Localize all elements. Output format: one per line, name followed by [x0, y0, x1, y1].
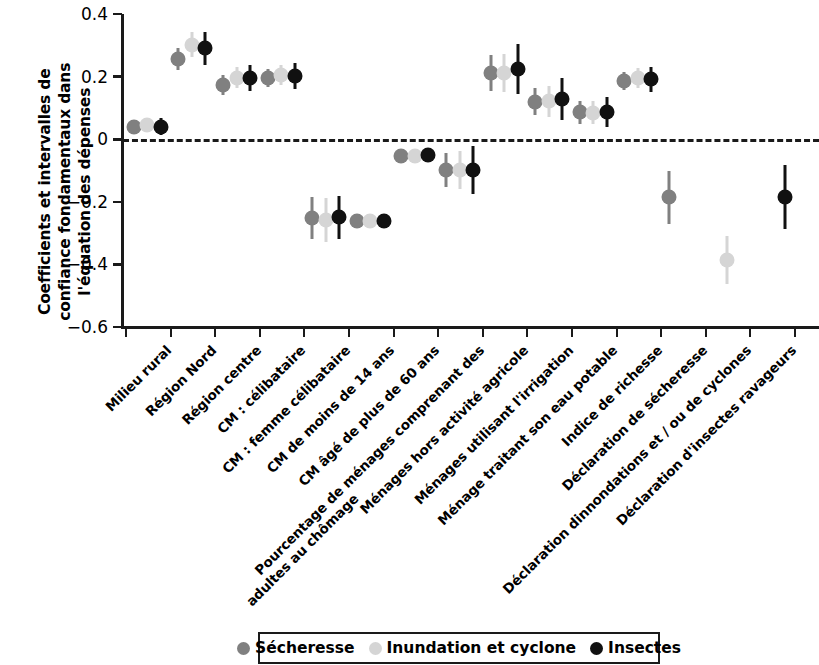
x-axis-label-line: Région centre	[178, 342, 264, 428]
x-tick-mark	[259, 328, 261, 337]
x-tick-mark	[437, 328, 439, 337]
data-point-marker	[541, 94, 556, 109]
x-tick-mark	[393, 328, 395, 337]
x-axis-label-region-centre: Région centre	[178, 342, 264, 428]
data-point-marker	[778, 190, 793, 205]
y-axis-line	[121, 14, 124, 328]
legend-swatch-icon	[369, 642, 382, 655]
y-tick-label: 0	[97, 129, 108, 149]
x-axis-label-line: Ménages hors activité agricole	[357, 342, 532, 517]
data-point-marker	[662, 190, 677, 205]
legend-item-label: Sécheresse	[255, 639, 355, 657]
y-tick-label: −0.6	[67, 317, 108, 337]
legend-swatch-icon	[590, 642, 603, 655]
y-tick-label: −0.2	[67, 192, 108, 212]
legend-item-2[interactable]: Insectes	[583, 639, 688, 657]
x-tick-mark	[749, 328, 751, 337]
legend-item-label: Inundation et cyclone	[387, 639, 577, 657]
data-point-marker	[332, 210, 347, 225]
x-tick-mark	[125, 328, 127, 337]
y-tick-label: 0.4	[81, 4, 108, 24]
x-axis-label-menages-hors-activite-agricole: Ménages hors activité agricole	[357, 342, 532, 517]
data-point-marker	[555, 92, 570, 107]
data-point-marker	[599, 104, 614, 119]
data-point-marker	[376, 214, 391, 229]
zero-reference-line	[123, 139, 819, 142]
x-tick-mark	[660, 328, 662, 337]
legend-item-1[interactable]: Inundation et cyclone	[362, 639, 584, 657]
data-point-marker	[720, 252, 735, 267]
coefficient-plot-figure: Coefficients et intervalles de confiance…	[0, 0, 819, 665]
data-point-marker	[216, 78, 231, 93]
data-point-marker	[510, 61, 525, 76]
x-tick-mark	[616, 328, 618, 337]
x-tick-mark	[482, 328, 484, 337]
data-point-marker	[153, 119, 168, 134]
x-tick-mark	[571, 328, 573, 337]
x-tick-mark	[794, 328, 796, 337]
data-point-marker	[243, 70, 258, 85]
x-tick-mark	[170, 328, 172, 337]
x-tick-mark	[526, 328, 528, 337]
legend-swatch-icon	[237, 642, 250, 655]
data-point-marker	[171, 52, 186, 67]
data-point-marker	[466, 162, 481, 177]
legend: SécheresseInundation et cycloneInsectes	[258, 632, 660, 664]
x-tick-mark	[348, 328, 350, 337]
x-axis-line	[121, 326, 819, 329]
legend-item-0[interactable]: Sécheresse	[230, 639, 362, 657]
x-tick-mark	[214, 328, 216, 337]
y-tick-label: −0.4	[67, 254, 108, 274]
legend-item-label: Insectes	[608, 639, 681, 657]
data-point-marker	[421, 148, 436, 163]
data-point-marker	[644, 72, 659, 87]
x-axis-label-line: adultes au chômage	[242, 353, 498, 609]
y-tick-label: 0.2	[81, 67, 108, 87]
data-point-marker	[198, 41, 213, 56]
data-point-marker	[287, 68, 302, 83]
x-tick-mark	[303, 328, 305, 337]
x-tick-mark	[705, 328, 707, 337]
